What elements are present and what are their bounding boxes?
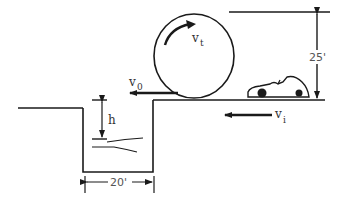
v0-label: v [128,75,136,89]
water-surface [92,138,143,152]
v0-subscript: 0 [137,82,143,92]
height-dimension-label: 25' [309,51,326,64]
vi-subscript: i [283,115,286,125]
car-icon [248,77,309,98]
h-label: h [108,113,116,127]
vi-label: v [274,107,282,121]
h-dimension [92,100,107,139]
vt-label: v [191,31,199,45]
pit [83,100,153,172]
loop-circle [154,14,234,98]
vt-subscript: t [200,38,204,48]
width-dimension-label: 20' [110,176,127,189]
physics-diagram: v t v 0 25' v i h 20' [0,0,349,208]
